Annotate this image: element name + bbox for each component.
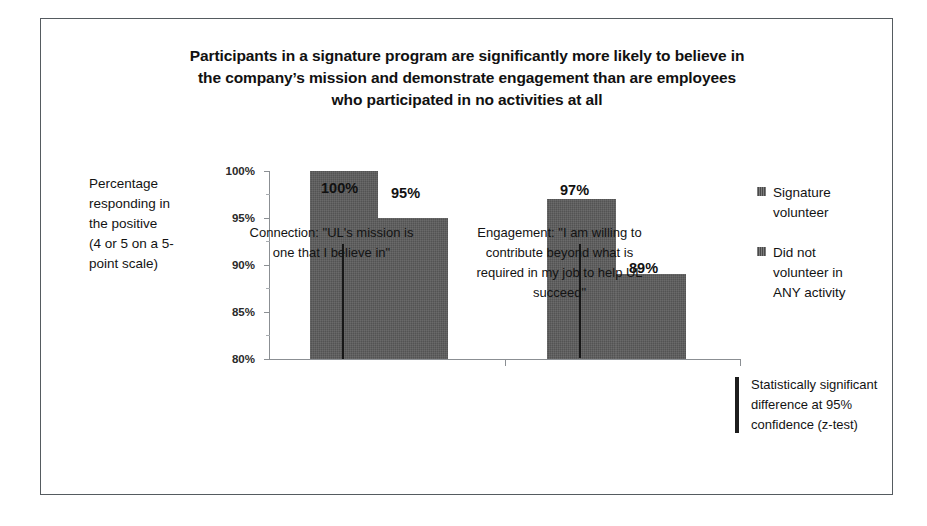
y-axis-title-line-1: Percentage (89, 174, 217, 194)
y-axis-title-line-2: responding in (89, 194, 217, 214)
chart-frame: Participants in a signature program are … (40, 18, 893, 495)
significance-footnote-line-2: difference at 95% (751, 395, 921, 415)
y-axis-title-line-3: the positive (89, 214, 217, 234)
legend-label-signature-volunteer-line-1: Signature (773, 185, 831, 200)
chart-title: Participants in a signature program are … (107, 45, 827, 111)
y-tick-minor-4 (266, 335, 270, 336)
y-tick-90: 90% (264, 265, 270, 266)
legend-swatch-icon-did-not-volunteer (757, 247, 766, 256)
bar-signature-volunteer-connection[interactable] (310, 171, 378, 359)
category-label-connection: Connection: "UL's mission is one that I … (214, 223, 449, 263)
y-tick-label-100: 100% (226, 165, 255, 177)
y-axis-title-line-4: (4 or 5 on a 5- (89, 234, 217, 254)
category-label-connection-line-2: one that I believe in" (214, 243, 449, 263)
y-tick-100: 100% (264, 171, 270, 172)
x-axis-tick-separator (505, 359, 506, 366)
bar-value-label-100: 100% (321, 180, 358, 196)
y-axis-title: Percentage responding in the positive (4… (89, 174, 217, 274)
y-tick-label-80: 80% (232, 353, 255, 365)
y-axis-title-line-5: point scale) (89, 254, 217, 274)
x-axis-tick-end (740, 359, 741, 366)
y-tick-80: 80% (264, 359, 270, 360)
bar-value-label-97: 97% (560, 182, 589, 198)
chart-title-line-1: Participants in a signature program are … (107, 45, 827, 67)
bar-value-label-95: 95% (391, 185, 420, 201)
category-label-connection-line-1: Connection: "UL's mission is (214, 223, 449, 243)
significance-footnote-text: Statistically significant difference at … (751, 375, 921, 435)
legend-label-did-not-volunteer-line-3: ANY activity (773, 285, 846, 300)
significance-footnote: Statistically significant difference at … (735, 375, 921, 435)
legend-label-did-not-volunteer-line-2: volunteer in (773, 265, 843, 280)
y-tick-minor-3 (266, 288, 270, 289)
y-tick-85: 85% (264, 312, 270, 313)
chart-title-line-2: the company’s mission and demonstrate en… (107, 67, 827, 89)
legend-label-did-not-volunteer: Did not volunteer in ANY activity (773, 243, 846, 303)
category-label-engagement-line-4: succeed" (437, 283, 682, 303)
category-label-engagement-line-3: required in my job to help UL (437, 263, 682, 283)
legend-swatch-icon-signature-volunteer (757, 187, 766, 196)
legend-label-did-not-volunteer-line-1: Did not (773, 245, 816, 260)
legend-label-signature-volunteer-line-2: volunteer (773, 205, 829, 220)
y-tick-minor-1 (266, 194, 270, 195)
legend-item-signature-volunteer[interactable]: Signature volunteer (757, 183, 917, 223)
significance-marker-key-icon (735, 377, 739, 433)
y-tick-95: 95% (264, 218, 270, 219)
significance-footnote-line-1: Statistically significant (751, 375, 921, 395)
legend-item-did-not-volunteer[interactable]: Did not volunteer in ANY activity (757, 243, 917, 303)
chart-legend: Signature volunteer Did not volunteer in… (757, 183, 917, 323)
chart-title-line-3: who participated in no activities at all (107, 89, 827, 111)
y-tick-label-85: 85% (232, 306, 255, 318)
significance-footnote-line-3: confidence (z-test) (751, 415, 921, 435)
category-label-engagement-line-1: Engagement: "I am willing to (437, 223, 682, 243)
legend-label-signature-volunteer: Signature volunteer (773, 183, 831, 223)
category-label-engagement: Engagement: "I am willing to contribute … (437, 223, 682, 303)
category-label-engagement-line-2: contribute beyond what is (437, 243, 682, 263)
